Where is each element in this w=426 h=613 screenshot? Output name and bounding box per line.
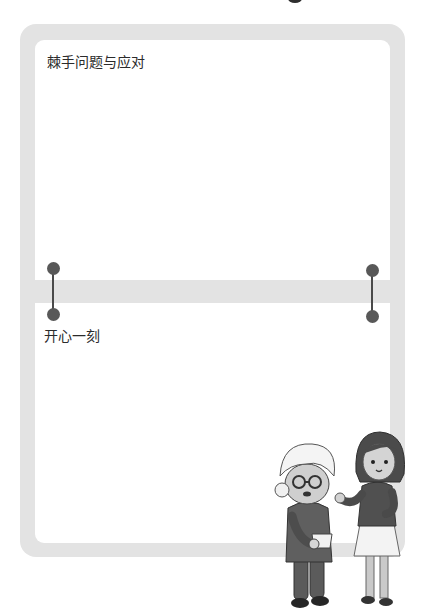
binding-ring-icon: [366, 310, 379, 323]
binding-ring-icon: [366, 264, 379, 277]
section-title-happy-moment: 开心一刻: [44, 325, 100, 345]
grandma-figure: [275, 444, 335, 608]
girl-figure: [335, 432, 405, 606]
cropped-decoration: [288, 0, 302, 3]
binding-ring-icon: [47, 262, 60, 275]
section-panel-tricky-problems[interactable]: [35, 40, 390, 280]
section-title-tricky-problems: 棘手问题与应对: [47, 51, 145, 71]
binding-ring-icon: [47, 308, 60, 321]
grandma-and-girl-illustration: [262, 420, 426, 613]
